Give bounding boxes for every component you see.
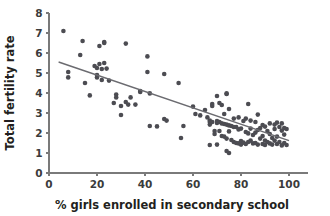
data-point (268, 121, 273, 126)
y-tick-label: 8 (35, 7, 42, 19)
y-tick-label: 2 (35, 127, 42, 139)
data-point (66, 75, 71, 80)
data-point (164, 118, 169, 123)
data-point (83, 81, 88, 86)
data-point (227, 151, 232, 156)
y-axis-title: Total fertility rate (3, 35, 17, 150)
data-point (193, 112, 198, 117)
y-axis: 012345678 (35, 7, 49, 179)
data-point (224, 136, 229, 141)
scatter-chart: 012345678 020406080100 Total fertility r… (0, 0, 330, 216)
y-tick-label: 5 (35, 67, 42, 79)
y-tick-label: 1 (35, 147, 42, 159)
data-point (104, 66, 109, 71)
y-tick-label: 7 (35, 27, 42, 39)
data-point (198, 113, 203, 118)
data-point (78, 53, 83, 58)
data-point (260, 134, 265, 139)
data-point (253, 120, 258, 125)
data-point (244, 116, 249, 121)
data-point (128, 95, 133, 100)
x-tick-label: 60 (186, 178, 201, 190)
data-point (217, 129, 222, 134)
data-point (215, 94, 220, 99)
data-point (88, 93, 93, 98)
data-point (102, 61, 107, 66)
y-tick-label: 6 (35, 47, 42, 59)
data-point (102, 41, 107, 46)
data-point (176, 81, 181, 86)
data-point (280, 121, 285, 126)
data-point (100, 67, 105, 72)
x-tick-label: 80 (234, 178, 249, 190)
data-point (255, 112, 260, 117)
data-point (248, 118, 253, 123)
y-tick-label: 4 (35, 87, 42, 99)
data-point (227, 129, 232, 134)
data-point (227, 107, 232, 112)
data-point (215, 142, 220, 147)
data-point (80, 39, 85, 44)
data-points (61, 29, 289, 156)
data-point (97, 44, 102, 49)
data-point (224, 91, 229, 96)
data-point (210, 104, 215, 109)
data-point (97, 62, 102, 67)
data-point (133, 102, 138, 107)
data-point (124, 41, 129, 46)
data-point (284, 143, 289, 148)
y-tick-label: 0 (35, 167, 42, 179)
data-point (112, 101, 117, 106)
data-point (220, 103, 225, 108)
data-point (270, 142, 275, 147)
data-point (66, 70, 71, 75)
data-point (114, 95, 119, 100)
data-point (210, 120, 215, 125)
data-point (272, 127, 277, 132)
data-point (162, 72, 167, 77)
data-point (126, 102, 131, 107)
data-point (212, 132, 217, 137)
data-point (119, 113, 124, 118)
data-point (145, 70, 150, 75)
data-point (95, 66, 100, 71)
x-axis: 020406080100 (45, 173, 308, 190)
x-tick-label: 20 (90, 178, 105, 190)
regression-line (59, 62, 289, 141)
data-point (239, 126, 244, 131)
data-point (61, 29, 66, 34)
data-point (232, 116, 237, 121)
data-point (119, 104, 124, 109)
x-tick-label: 40 (138, 178, 153, 190)
data-point (284, 127, 289, 132)
data-point (208, 143, 213, 148)
data-point (246, 102, 251, 107)
data-point (275, 120, 280, 125)
y-tick-label: 3 (35, 107, 42, 119)
data-point (222, 112, 227, 117)
x-axis-title: % girls enrolled in secondary school (55, 198, 289, 212)
data-point (148, 124, 153, 129)
data-point (155, 124, 160, 129)
data-point (255, 142, 260, 147)
chart-canvas: 012345678 020406080100 Total fertility r… (0, 0, 330, 216)
data-point (282, 132, 287, 137)
data-point (179, 136, 184, 141)
x-tick-label: 100 (278, 178, 300, 190)
data-point (100, 78, 105, 83)
x-tick-label: 0 (45, 178, 52, 190)
data-point (263, 124, 268, 129)
data-point (246, 131, 251, 136)
data-point (181, 124, 186, 129)
trend-line (59, 62, 289, 141)
data-point (236, 115, 241, 120)
data-point (145, 54, 150, 59)
